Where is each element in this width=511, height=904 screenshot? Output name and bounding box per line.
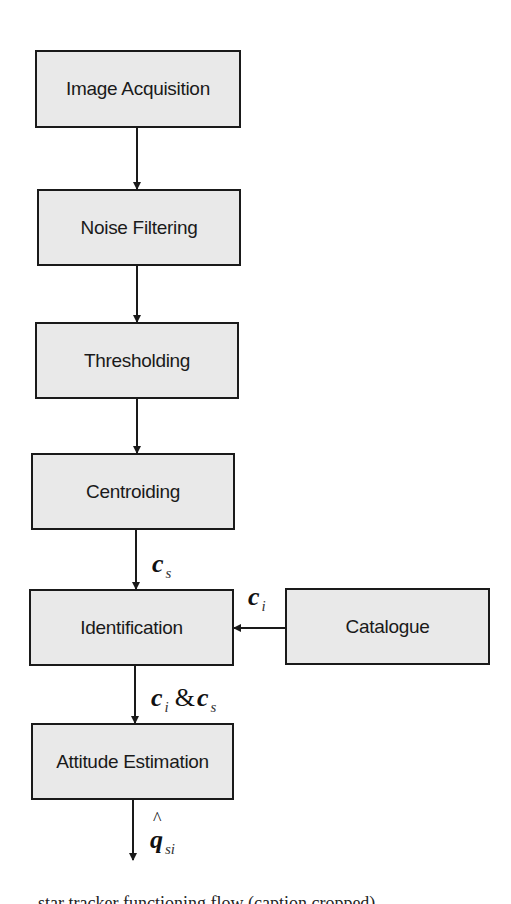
edge-label-ci-and-cs: ci&cs	[151, 683, 216, 713]
edge-label-cs: cs	[152, 549, 171, 579]
node-label: Thresholding	[84, 350, 190, 372]
node-label: Noise Filtering	[81, 217, 198, 239]
edge-label-ci: ci	[248, 582, 266, 612]
node-thresholding: Thresholding	[35, 322, 239, 399]
node-identification: Identification	[29, 589, 234, 666]
node-centroiding: Centroiding	[31, 453, 235, 530]
edge-label-q-hat: qsi	[150, 825, 175, 855]
node-catalogue: Catalogue	[285, 588, 490, 665]
node-noise-filtering: Noise Filtering	[37, 189, 241, 266]
node-label: Attitude Estimation	[56, 751, 209, 773]
node-attitude-estimation: Attitude Estimation	[31, 723, 234, 800]
node-label: Identification	[80, 617, 182, 639]
figure-caption: ... star tracker functioning flow (capti…	[20, 893, 375, 904]
node-image-acquisition: Image Acquisition	[35, 50, 241, 128]
node-label: Catalogue	[346, 616, 430, 638]
node-label: Centroiding	[86, 481, 180, 503]
node-label: Image Acquisition	[66, 78, 210, 100]
